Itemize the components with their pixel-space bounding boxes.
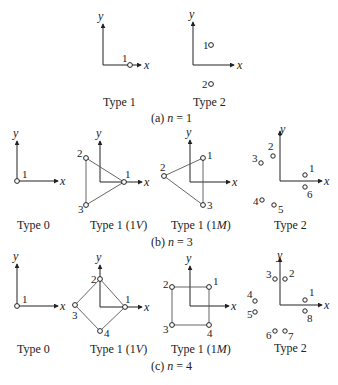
panel-c-type0: y x 1 Type 0 (12, 249, 66, 356)
node-label: 1 (122, 52, 128, 64)
node-1 (15, 304, 20, 309)
caption-c: (c) n = 4 (151, 359, 192, 373)
node-1 (303, 298, 307, 302)
panel-b-type2: y x 1 2 3 4 5 6 Type 2 (252, 122, 330, 232)
panel-c-type1-1m: y x 1 2 3 4 Type 1 (1M) (163, 251, 237, 356)
node-label: 4 (104, 327, 110, 339)
node-label: 3 (266, 268, 272, 280)
panel-a-type2: y x 1 2 Type 2 (188, 7, 243, 109)
node-label: 3 (207, 199, 213, 211)
section-b: y x 1 Type 0 y x 1 2 3 Type 1 (1V) y x (12, 122, 330, 249)
x-axis-label: x (143, 300, 150, 314)
panel-a-type1: y x 1 Type 1 (97, 9, 150, 109)
node-1 (122, 180, 127, 185)
y-axis-label: y (185, 125, 192, 139)
node-6 (273, 329, 277, 333)
x-axis-label: x (231, 175, 238, 189)
node-label: 1 (207, 149, 213, 161)
panel-label: Type 2 (274, 341, 307, 355)
panel-label: Type 2 (274, 218, 307, 232)
node-label: 2 (268, 140, 274, 152)
node-3 (259, 161, 263, 165)
panel-label: Type 1 (1V) (90, 342, 147, 356)
caption-a: (a) n = 1 (151, 111, 192, 125)
x-axis-label: x (236, 58, 243, 72)
node-3 (201, 203, 206, 208)
node-2 (170, 285, 175, 290)
node-label: 5 (247, 308, 253, 320)
node-3 (273, 277, 277, 281)
node-label: 4 (247, 288, 253, 300)
node-label: 1 (125, 168, 131, 180)
y-axis-label: y (185, 251, 192, 265)
node-label: 1 (22, 168, 28, 180)
node-label: 1 (125, 293, 131, 305)
node-3 (170, 323, 175, 328)
y-axis-label: y (276, 248, 283, 262)
x-axis-label: x (143, 175, 150, 189)
node-3 (84, 203, 89, 208)
x-axis-label: x (59, 174, 66, 188)
section-c: y x 1 Type 0 y x 1 2 3 4 Type 1 (1V) (12, 248, 330, 373)
x-axis-label: x (323, 298, 330, 312)
node-2 (209, 82, 214, 87)
panel-b-type1-1m: y x 1 2 3 Type 1 (1M) (160, 125, 238, 232)
x-axis-label: x (323, 174, 330, 188)
node-2 (84, 156, 89, 161)
caption-b: (b) n = 3 (151, 235, 193, 249)
node-label: 3 (163, 323, 169, 335)
node-3 (73, 303, 78, 308)
y-axis-label: y (12, 126, 19, 140)
node-label: 2 (160, 161, 166, 173)
panel-c-type1-1v: y x 1 2 3 4 Type 1 (1V) (72, 250, 150, 356)
node-label: 4 (207, 327, 213, 339)
x-axis-label: x (143, 58, 150, 72)
node-2 (271, 154, 275, 158)
node-label: 1 (309, 286, 315, 298)
panel-label: Type 1 (1V) (90, 218, 147, 232)
panel-label: Type 1 (1M) (171, 218, 231, 232)
panel-label: Type 0 (17, 218, 50, 232)
node-4 (253, 299, 257, 303)
node-1 (209, 43, 214, 48)
node-label: 1 (203, 39, 209, 51)
panel-label: Type 1 (1M) (171, 342, 231, 356)
panel-label: Type 2 (193, 95, 226, 109)
node-label: 2 (202, 78, 208, 90)
node-5 (253, 310, 257, 314)
x-axis-label: x (230, 299, 237, 313)
symmetry-types-diagram: y x 1 Type 1 y x 1 2 Type 2 (a) n = 1 y … (0, 0, 338, 385)
x-axis-label: x (59, 299, 66, 313)
node-label: 2 (289, 267, 295, 279)
node-label: 1 (22, 293, 28, 305)
node-1 (201, 156, 206, 161)
panel-b-type0: y x 1 Type 0 (12, 126, 66, 232)
node-label: 3 (252, 152, 258, 164)
y-axis-label: y (95, 126, 102, 140)
node-label: 2 (77, 147, 83, 159)
node-2 (283, 277, 287, 281)
node-4 (260, 198, 264, 202)
node-label: 2 (91, 273, 97, 285)
panel-b-type1-1v: y x 1 2 3 Type 1 (1V) (77, 126, 150, 232)
node-5 (272, 203, 276, 207)
node-label: 1 (309, 162, 315, 174)
node-label: 2 (163, 278, 169, 290)
panel-c-type2: y x 1 2 3 4 5 6 7 8 Type 2 (247, 248, 330, 355)
node-label: 1 (213, 275, 219, 287)
node-label: 3 (72, 309, 78, 321)
node-7 (283, 329, 287, 333)
node-1 (128, 63, 133, 68)
node-1 (15, 179, 20, 184)
node-label: 4 (253, 195, 259, 207)
node-label: 6 (266, 329, 272, 341)
y-axis-label: y (12, 249, 19, 263)
node-label: 5 (278, 203, 284, 215)
node-label: 8 (307, 312, 313, 324)
section-a: y x 1 Type 1 y x 1 2 Type 2 (a) n = 1 (97, 7, 243, 125)
node-1 (123, 305, 128, 310)
node-1 (303, 173, 307, 177)
panel-label: Type 1 (103, 95, 136, 109)
node-label: 3 (78, 203, 84, 215)
panel-label: Type 0 (17, 342, 50, 356)
